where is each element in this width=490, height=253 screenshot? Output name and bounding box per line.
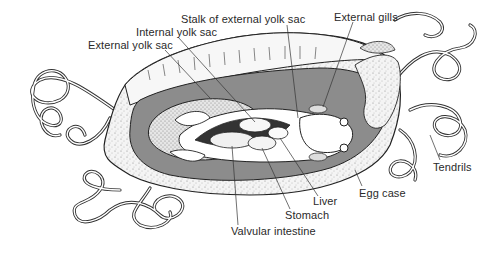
label-internal-yolk-sac: Internal yolk sac: [136, 26, 217, 38]
label-tendrils: Tendrils: [433, 161, 472, 173]
shark-embryo-diagram: Stalk of external yolk sac Internal yolk…: [0, 0, 490, 253]
label-external-yolk-sac: External yolk sac: [88, 39, 173, 51]
label-stalk-external-yolk-sac: Stalk of external yolk sac: [181, 13, 305, 25]
label-liver: Liver: [313, 195, 337, 207]
liver: [268, 127, 288, 139]
tendrils-right: [390, 13, 475, 180]
diagram-drawing: [0, 0, 490, 253]
label-egg-case: Egg case: [359, 187, 406, 199]
label-external-gills: External gills: [334, 11, 398, 23]
label-valvular-intestine: Valvular intestine: [231, 225, 316, 237]
valvular-intestine: [210, 132, 254, 148]
internal-yolk-sac: [239, 118, 271, 132]
label-stomach: Stomach: [285, 209, 329, 221]
